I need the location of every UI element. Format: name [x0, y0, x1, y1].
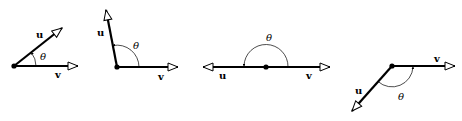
- label-theta: θ: [266, 32, 272, 43]
- label-theta: θ: [133, 40, 139, 51]
- panel-acute: u θ v: [11, 28, 78, 80]
- origin-dot: [114, 64, 119, 69]
- angle-between-vectors-figure: u θ v u θ v u θ v u θ v: [0, 0, 462, 121]
- label-theta: θ: [40, 51, 46, 62]
- label-u: u: [36, 29, 43, 40]
- panel-straight: u θ v: [203, 32, 330, 81]
- vector-u: [106, 10, 117, 67]
- angle-arc: [244, 44, 288, 67]
- panel-obtuse-near-right: u θ v: [97, 10, 178, 82]
- label-v: v: [54, 69, 62, 80]
- label-v: v: [433, 53, 441, 64]
- label-u: u: [97, 27, 104, 38]
- label-u: u: [355, 85, 362, 96]
- panel-obtuse-below: u θ v: [352, 53, 455, 111]
- angle-arc: [31, 53, 36, 67]
- label-v: v: [157, 71, 165, 82]
- origin-dot: [389, 63, 394, 68]
- label-u: u: [219, 70, 226, 81]
- origin-dot: [263, 64, 268, 69]
- origin-dot: [11, 63, 16, 68]
- label-v: v: [305, 70, 313, 81]
- label-theta: θ: [398, 91, 404, 102]
